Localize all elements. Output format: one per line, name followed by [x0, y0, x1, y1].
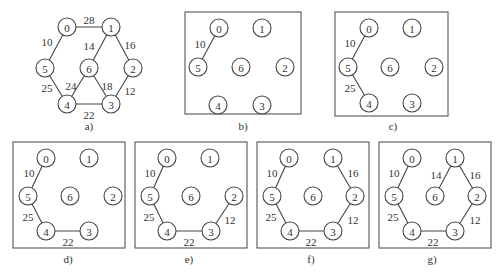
edge-weight: 12	[125, 85, 136, 97]
vertex-label: 4	[64, 99, 70, 111]
vertex-4: 4	[403, 222, 421, 240]
edge-weight: 25	[144, 211, 156, 223]
vertex-label: 6	[310, 191, 316, 203]
vertex-label: 5	[195, 62, 201, 74]
vertex-0: 0	[280, 149, 298, 167]
vertex-label: 1	[86, 153, 92, 165]
vertex-1: 1	[80, 149, 98, 167]
edge-weight: 22	[428, 236, 439, 248]
vertex-label: 5	[391, 191, 397, 203]
vertex-1: 1	[102, 18, 120, 36]
vertex-label: 6	[188, 191, 194, 203]
vertex-label: 5	[147, 191, 153, 203]
vertex-label: 3	[259, 100, 265, 112]
vertex-0: 0	[360, 19, 378, 37]
edge-weight: 14	[431, 169, 443, 181]
vertex-label: 1	[409, 23, 415, 35]
vertex-label: 3	[108, 99, 114, 111]
vertex-0: 0	[210, 19, 228, 37]
vertex-2: 2	[468, 187, 486, 205]
vertex-label: 5	[345, 62, 351, 74]
panel-caption: d)	[63, 253, 73, 266]
vertex-label: 0	[366, 23, 372, 35]
panel-c: 10250156243c)	[335, 12, 448, 133]
edge-weight: 10	[42, 36, 54, 48]
vertex-label: 6	[86, 63, 92, 75]
vertex-label: 5	[25, 191, 31, 203]
edge-weight: 25	[388, 211, 400, 223]
panel-g: 1014162522120156243g)	[379, 142, 491, 266]
panel-caption: g)	[427, 253, 437, 266]
vertex-label: 4	[215, 100, 221, 112]
vertex-5: 5	[263, 187, 281, 205]
vertex-1: 1	[403, 19, 421, 37]
vertex-6: 6	[232, 58, 250, 76]
vertex-label: 1	[108, 22, 114, 34]
panel-caption: a)	[85, 120, 94, 133]
vertex-label: 1	[259, 23, 265, 35]
vertex-5: 5	[339, 58, 357, 76]
panel-a: 2810141625241812220156243a)	[36, 14, 142, 133]
panel-caption: c)	[389, 120, 398, 133]
vertex-2: 2	[425, 58, 443, 76]
edge-weight: 28	[84, 14, 96, 26]
vertex-label: 2	[231, 191, 237, 203]
vertex-label: 3	[330, 226, 336, 238]
vertex-0: 0	[158, 149, 176, 167]
vertex-label: 0	[216, 23, 222, 35]
panel-e: 102522120156243e)	[135, 142, 247, 266]
vertex-3: 3	[102, 95, 120, 113]
vertex-label: 4	[409, 226, 415, 238]
edge-weight: 25	[345, 82, 357, 94]
edge-weight: 22	[306, 236, 317, 248]
edge-weight: 10	[345, 37, 357, 49]
prim-mst-figure: 2810141625241812220156243a)100156243b)10…	[0, 0, 502, 274]
vertex-0: 0	[403, 149, 421, 167]
panel-caption: f)	[307, 253, 315, 266]
vertex-label: 1	[207, 153, 213, 165]
vertex-label: 1	[452, 153, 458, 165]
vertex-label: 4	[366, 98, 372, 110]
edge-weight: 12	[225, 214, 236, 226]
vertex-label: 3	[452, 226, 458, 238]
vertex-1: 1	[253, 19, 271, 37]
vertex-label: 0	[164, 153, 170, 165]
vertex-label: 2	[110, 191, 116, 203]
edge-weight: 14	[84, 40, 96, 52]
vertex-6: 6	[61, 187, 79, 205]
vertex-5: 5	[19, 187, 37, 205]
edge-weight: 16	[470, 169, 482, 181]
vertex-label: 5	[42, 63, 48, 75]
vertex-1: 1	[446, 149, 464, 167]
vertex-4: 4	[58, 95, 76, 113]
panel-f: 10162522120156243f)	[257, 142, 369, 266]
vertex-label: 2	[352, 191, 358, 203]
vertex-5: 5	[141, 187, 159, 205]
vertex-0: 0	[58, 18, 76, 36]
vertex-label: 6	[67, 191, 73, 203]
vertex-label: 3	[208, 226, 214, 238]
vertex-2: 2	[276, 58, 294, 76]
vertex-4: 4	[37, 222, 55, 240]
vertex-label: 0	[64, 22, 70, 34]
edge-weight: 16	[125, 39, 137, 51]
vertex-4: 4	[281, 222, 299, 240]
edge-weight: 10	[24, 167, 36, 179]
edge-weight: 10	[389, 167, 401, 179]
edge-weight: 22	[184, 236, 195, 248]
edge-weight: 25	[266, 211, 278, 223]
vertex-label: 6	[238, 62, 244, 74]
vertex-3: 3	[324, 222, 342, 240]
panel-b: 100156243b)	[185, 12, 301, 133]
vertex-4: 4	[158, 222, 176, 240]
vertex-6: 6	[182, 187, 200, 205]
panel-caption: e)	[185, 253, 194, 266]
vertex-label: 4	[164, 226, 170, 238]
vertex-2: 2	[346, 187, 364, 205]
vertex-2: 2	[124, 59, 142, 77]
vertex-label: 0	[43, 153, 49, 165]
vertex-label: 2	[130, 63, 136, 75]
vertex-6: 6	[426, 187, 444, 205]
vertex-label: 3	[409, 98, 415, 110]
edge-weight: 10	[267, 167, 279, 179]
